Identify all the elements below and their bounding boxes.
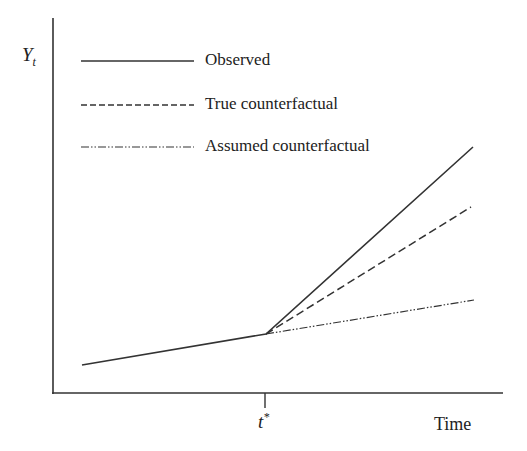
series-observed: [82, 147, 473, 365]
series-true-counterfactual: [266, 207, 471, 334]
x-tick-label: t*: [258, 410, 269, 433]
legend-label-true: True counterfactual: [205, 94, 338, 114]
y-label-sub: t: [33, 55, 36, 69]
legend-label-assumed: Assumed counterfactual: [205, 136, 370, 156]
y-label-main: Y: [22, 44, 33, 65]
legend-label-observed: Observed: [205, 50, 270, 70]
y-axis-label: Yt: [22, 44, 36, 70]
tick-sup: *: [263, 410, 269, 424]
x-axis-label: Time: [434, 414, 471, 435]
